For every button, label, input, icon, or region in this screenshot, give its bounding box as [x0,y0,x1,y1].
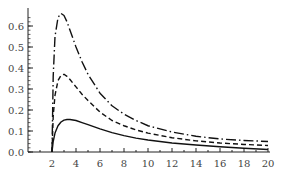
y-tick-label: 0.2 [8,105,24,116]
x-tick-label: 8 [121,158,127,169]
x-tick-label: 16 [214,158,227,169]
x-tick-label: 6 [97,158,103,169]
x-tick-label: 10 [142,158,155,169]
y-tick-label: 0.3 [8,84,24,95]
x-tick-label: 14 [190,158,203,169]
x-tick-label: 2 [49,158,55,169]
x-tick-label: 20 [262,158,275,169]
y-tick-label: 0.0 [8,147,24,158]
series-solid [52,119,268,152]
y-tick-label: 0.5 [8,42,24,53]
y-tick-label: 0.4 [8,63,24,74]
x-tick-label: 18 [238,158,251,169]
y-tick-label: 0.6 [8,21,24,32]
y-tick-label: 0.1 [8,126,24,137]
chart: 24681012141618200.00.10.20.30.40.50.6 [0,0,282,173]
x-tick-label: 4 [73,158,79,169]
x-tick-label: 12 [166,158,179,169]
series-dash-dot [52,13,268,152]
line-chart: 24681012141618200.00.10.20.30.40.50.6 [0,0,282,173]
